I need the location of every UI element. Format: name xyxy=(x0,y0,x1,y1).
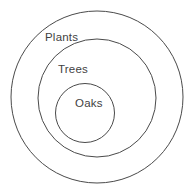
circle-oaks xyxy=(56,84,115,143)
label-plants: Plants xyxy=(45,32,78,44)
nested-set-diagram: Plants Trees Oaks xyxy=(0,0,195,193)
label-oaks: Oaks xyxy=(75,98,103,110)
label-trees: Trees xyxy=(58,64,88,76)
